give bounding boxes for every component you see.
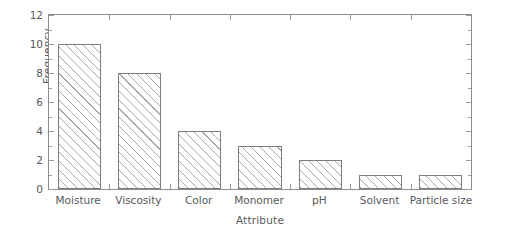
y-axis-tick-minor-right <box>468 117 471 118</box>
y-axis-tick-label: 8 <box>36 67 43 79</box>
bar[interactable] <box>58 44 101 189</box>
y-axis-tick-major: 6 <box>49 102 54 103</box>
y-axis-tick-minor <box>49 175 52 176</box>
bar[interactable] <box>178 131 221 189</box>
y-axis-tick-label: 2 <box>36 154 43 166</box>
x-axis-label: Attribute <box>48 214 472 226</box>
y-axis-tick-major-right <box>466 131 471 132</box>
y-axis-tick-major: 4 <box>49 131 54 132</box>
bar[interactable] <box>299 160 342 189</box>
y-axis-tick-minor-right <box>468 88 471 89</box>
y-axis-tick-minor <box>49 59 52 60</box>
x-axis-tick-top <box>350 15 351 20</box>
bar[interactable] <box>238 146 281 190</box>
x-axis-tick-top <box>170 15 171 20</box>
plot-inner: 024681012 <box>49 15 471 189</box>
x-axis-tick-top <box>230 15 231 20</box>
y-axis-tick-minor-right <box>468 175 471 176</box>
y-axis-tick-major-right <box>466 102 471 103</box>
y-axis-tick-major-right <box>466 160 471 161</box>
x-axis-tick-label: Moisture <box>48 194 108 206</box>
x-axis-tick-label: Solvent <box>349 194 409 206</box>
y-axis-tick-label: 10 <box>30 38 43 50</box>
bar[interactable] <box>118 73 161 189</box>
y-axis-tick-minor-right <box>468 59 471 60</box>
y-axis-tick-major: 2 <box>49 160 54 161</box>
bar[interactable] <box>419 175 462 190</box>
y-axis-tick-major-right <box>466 15 471 16</box>
y-axis-tick-label: 0 <box>36 183 43 195</box>
y-axis-tick-minor <box>49 146 52 147</box>
x-axis-tick-label: Monomer <box>229 194 289 206</box>
y-axis-tick-label: 4 <box>36 125 43 137</box>
bar[interactable] <box>359 175 402 190</box>
x-axis-tick-label: Particle size <box>410 194 470 206</box>
bar-chart-figure: Frequency Attribute 024681012 MoistureVi… <box>0 0 506 238</box>
x-axis-tick-label: pH <box>289 194 349 206</box>
y-axis-tick-major-right <box>466 73 471 74</box>
x-axis-tick-top <box>290 15 291 20</box>
plot-area: 024681012 <box>48 14 472 190</box>
y-axis-tick-major: 12 <box>49 15 54 16</box>
x-axis-tick <box>350 184 351 189</box>
x-axis-tick <box>109 184 110 189</box>
x-axis-tick <box>290 184 291 189</box>
x-axis-tick-top <box>411 15 412 20</box>
y-axis-tick-minor <box>49 88 52 89</box>
y-axis-tick-major: 8 <box>49 73 54 74</box>
y-axis-tick-major: 10 <box>49 44 54 45</box>
x-axis-tick-label: Color <box>169 194 229 206</box>
y-axis-tick-label: 6 <box>36 96 43 108</box>
y-axis-tick-minor-right <box>468 146 471 147</box>
x-axis-tick-label: Viscosity <box>108 194 168 206</box>
x-axis-tick-top <box>109 15 110 20</box>
y-axis-tick-major: 0 <box>49 189 54 190</box>
y-axis-tick-major-right <box>466 189 471 190</box>
y-axis-tick-minor <box>49 30 52 31</box>
y-axis-tick-major-right <box>466 44 471 45</box>
y-axis-tick-minor-right <box>468 30 471 31</box>
x-axis-tick <box>411 184 412 189</box>
x-axis-tick <box>230 184 231 189</box>
y-axis-tick-label: 12 <box>30 9 43 21</box>
y-axis-tick-minor <box>49 117 52 118</box>
x-axis-tick <box>170 184 171 189</box>
